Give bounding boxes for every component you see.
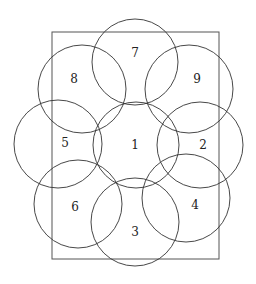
circle-label-7: 7 [131, 46, 139, 60]
circle-5 [14, 100, 102, 188]
circles-diagram: 789512634 [0, 0, 256, 284]
circle-3 [91, 178, 179, 266]
circle-label-5: 5 [61, 136, 69, 150]
circle-4 [142, 154, 230, 242]
circle-label-1: 1 [131, 138, 139, 152]
circle-label-6: 6 [71, 200, 79, 214]
circle-label-3: 3 [131, 225, 139, 239]
labels-group: 789512634 [61, 46, 207, 239]
circle-label-4: 4 [191, 198, 199, 212]
circle-8 [38, 45, 126, 133]
circle-label-9: 9 [193, 72, 201, 86]
circles-group [14, 19, 243, 266]
circle-9 [145, 45, 233, 133]
circle-label-2: 2 [199, 138, 207, 152]
circle-label-8: 8 [70, 72, 78, 86]
